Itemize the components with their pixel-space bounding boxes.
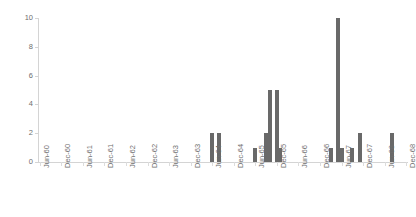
x-tick-label: Jun-67: [345, 145, 353, 168]
x-tick-label: Dec-62: [151, 144, 159, 168]
x-tick-label: Jun-62: [129, 145, 137, 168]
x-tick-mark: [83, 162, 84, 166]
x-tick-mark: [363, 162, 364, 166]
x-tick-label: Dec-67: [366, 144, 374, 168]
x-tick-mark: [40, 162, 41, 166]
bar: [336, 18, 340, 162]
x-tick-label: Dec-64: [237, 144, 245, 168]
y-tick-mark: [35, 104, 38, 105]
x-tick-mark: [320, 162, 321, 166]
x-tick-mark: [385, 162, 386, 166]
x-tick-label: Jun-68: [388, 145, 396, 168]
x-tick-mark: [169, 162, 170, 166]
bar: [268, 90, 272, 162]
bar-chart: 0246810 Jun-60Dec-60Jun-61Dec-61Jun-62De…: [0, 0, 416, 217]
x-tick-mark: [148, 162, 149, 166]
bar: [358, 133, 362, 162]
x-tick-mark: [126, 162, 127, 166]
y-tick-mark: [35, 133, 38, 134]
x-tick-mark: [234, 162, 235, 166]
y-tick-mark: [35, 18, 38, 19]
x-tick-label: Jun-64: [215, 145, 223, 168]
bar: [340, 148, 344, 162]
x-tick-label: Dec-68: [409, 144, 416, 168]
x-tick-mark: [191, 162, 192, 166]
x-tick-label: Dec-60: [64, 144, 72, 168]
x-tick-label: Dec-61: [107, 144, 115, 168]
x-tick-label: Jun-65: [258, 145, 266, 168]
x-tick-label: Jun-66: [301, 145, 309, 168]
y-tick-mark: [35, 47, 38, 48]
x-tick-mark: [342, 162, 343, 166]
x-tick-label: Jun-60: [43, 145, 51, 168]
x-tick-label: Jun-61: [86, 145, 94, 168]
x-tick-label: Jun-63: [172, 145, 180, 168]
y-tick-mark: [35, 76, 38, 77]
y-tick-mark: [35, 162, 38, 163]
x-tick-label: Dec-63: [194, 144, 202, 168]
x-tick-label: Dec-66: [323, 144, 331, 168]
plot-area: 0246810: [38, 18, 408, 162]
x-tick-label: Dec-65: [280, 144, 288, 168]
x-tick-mark: [277, 162, 278, 166]
